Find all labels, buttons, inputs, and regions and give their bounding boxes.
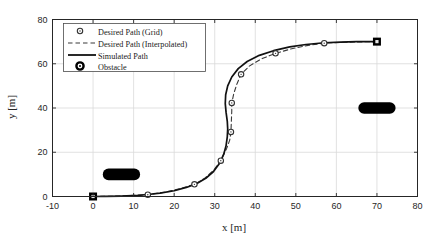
waypoint-marker-center	[230, 131, 231, 132]
x-tick-label: 30	[210, 201, 220, 211]
x-tick-label: 40	[250, 201, 260, 211]
waypoint-marker-center	[324, 42, 325, 43]
obstacle-right	[358, 102, 395, 114]
y-tick-label: 40	[37, 103, 47, 113]
legend-circle-center-icon	[79, 30, 80, 31]
x-tick-label: 70	[372, 201, 382, 211]
y-axis-label: y [m]	[5, 95, 17, 119]
path-planning-chart: -1001020304050607080020406080 x [m] y [m…	[0, 0, 429, 237]
y-tick-label: 0	[42, 192, 47, 202]
x-axis-label: x [m]	[222, 221, 246, 233]
waypoint-marker-center	[147, 194, 148, 195]
goal-waypoint-center	[375, 40, 378, 43]
legend-label-2: Simulated Path	[98, 52, 148, 61]
x-tick-label: 80	[412, 201, 422, 211]
legend-obstacle-center-icon	[79, 65, 81, 67]
waypoint-marker-center	[231, 102, 232, 103]
x-tick-label: 60	[331, 201, 341, 211]
legend-label-0: Desired Path (Grid)	[98, 28, 163, 37]
figure-container: -1001020304050607080020406080 x [m] y [m…	[0, 0, 429, 237]
x-tick-label: 10	[129, 201, 139, 211]
legend-label-1: Desired Path (Interpolated)	[98, 40, 187, 49]
y-tick-label: 80	[37, 15, 47, 25]
y-tick-label: 60	[37, 59, 47, 69]
obstacle-left	[103, 169, 140, 181]
waypoint-marker-center	[220, 160, 221, 161]
x-tick-label: 50	[291, 201, 301, 211]
x-tick-label: -10	[46, 201, 59, 211]
legend-label-3: Obstacle	[98, 63, 127, 72]
x-tick-label: 20	[169, 201, 179, 211]
x-tick-label: 0	[91, 201, 96, 211]
y-tick-label: 20	[37, 147, 47, 157]
waypoint-marker-center	[240, 74, 241, 75]
waypoint-marker-center	[194, 184, 195, 185]
legend: Desired Path (Grid) Desired Path (Interp…	[64, 24, 206, 72]
waypoint-marker-center	[275, 53, 276, 54]
